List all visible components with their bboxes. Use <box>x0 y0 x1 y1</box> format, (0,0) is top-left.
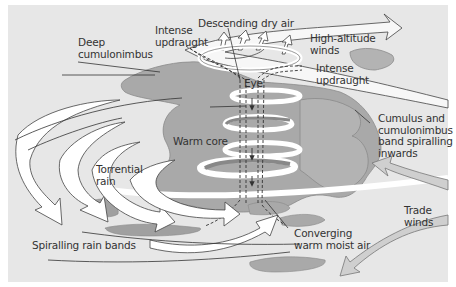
label-descending-dry-air: Descending dry air <box>198 18 294 30</box>
label-eye: Eye <box>244 78 263 90</box>
label-intense-updraught-right: Intense updraught <box>316 63 369 86</box>
label-cumulus-band: Cumulus and cumulonimbus band spiralling… <box>378 113 453 159</box>
label-spiralling-rain-bands: Spiralling rain bands <box>32 240 136 252</box>
label-trade-winds: Trade winds <box>404 205 433 228</box>
label-warm-core: Warm core <box>173 136 228 148</box>
label-high-altitude-winds: High-altitude winds <box>310 33 376 56</box>
cyclone-diagram: Deep cumulonimbus Intense updraught Desc… <box>0 0 456 287</box>
label-converging-air: Converging warm moist air <box>294 228 370 251</box>
label-deep-cumulonimbus: Deep cumulonimbus <box>78 37 153 60</box>
label-torrential-rain: Torrential rain <box>96 164 143 187</box>
